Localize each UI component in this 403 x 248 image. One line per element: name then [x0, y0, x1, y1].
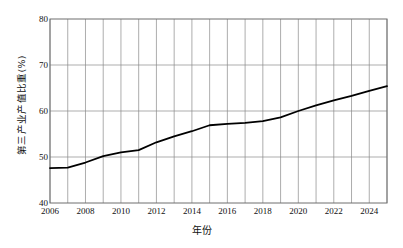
x-axis-label: 年份: [0, 222, 403, 237]
x-tick-label: 2010: [101, 206, 141, 216]
x-tick-label: 2016: [207, 206, 247, 216]
x-tick-label: 2024: [349, 206, 389, 216]
x-tick-label: 2018: [243, 206, 283, 216]
x-tick-label: 2014: [172, 206, 212, 216]
data-line-第三产业产值比重: [50, 86, 387, 168]
x-tick-label: 2022: [314, 206, 354, 216]
line-chart: 第三产业产值比重(%) 4050607080 20062008201020122…: [0, 0, 403, 248]
x-tick-label: 2012: [136, 206, 176, 216]
x-tick-label: 2006: [30, 206, 70, 216]
x-tick-label: 2008: [65, 206, 105, 216]
x-tick-label: 2020: [278, 206, 318, 216]
